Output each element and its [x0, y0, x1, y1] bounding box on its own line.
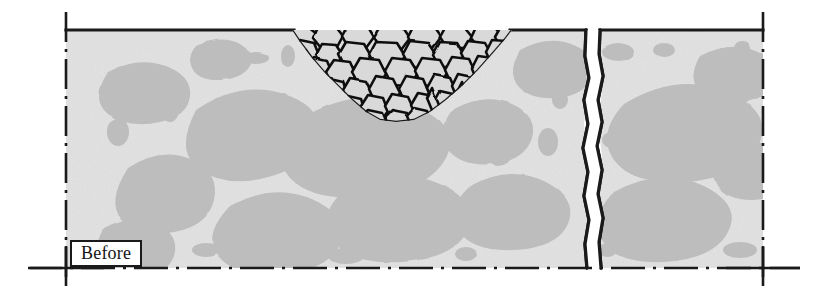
right-slab-region	[594, 24, 790, 274]
figure-canvas: Before	[0, 0, 816, 296]
before-label-box: Before	[70, 240, 142, 267]
before-label-text: Before	[81, 243, 131, 263]
vertical-crack	[583, 30, 603, 268]
